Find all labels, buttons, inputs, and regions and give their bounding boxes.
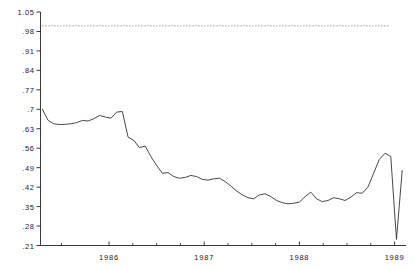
y-tick-label: .98 — [22, 27, 34, 36]
y-tick-label: .49 — [22, 163, 34, 172]
line-chart-plot — [0, 0, 414, 270]
y-tick-label: .35 — [22, 202, 34, 211]
y-tick-label: .21 — [22, 241, 34, 250]
x-tick-label: 1989 — [385, 253, 405, 262]
y-tick-label: .63 — [22, 124, 34, 133]
x-tick-label: 1988 — [289, 253, 309, 262]
y-tick-label: 1.05 — [18, 8, 35, 17]
y-tick-label: .77 — [22, 85, 34, 94]
y-tick-label: .84 — [22, 66, 34, 75]
x-tick-label: 1987 — [194, 253, 214, 262]
y-tick-label: .56 — [22, 144, 34, 153]
y-tick-label: .42 — [22, 183, 34, 192]
y-axis-ticks — [37, 12, 41, 246]
axis-frame — [41, 12, 407, 246]
y-tick-label: .7 — [27, 105, 34, 114]
x-tick-label: 1986 — [99, 253, 119, 262]
chart-container: .21.28.35.42.49.56.63.7.77.84.91.981.05 … — [0, 0, 414, 270]
data-series-group — [42, 109, 402, 239]
y-tick-label: .28 — [22, 222, 34, 231]
y-tick-label: .91 — [22, 46, 34, 55]
series-line-series-1 — [42, 109, 402, 239]
